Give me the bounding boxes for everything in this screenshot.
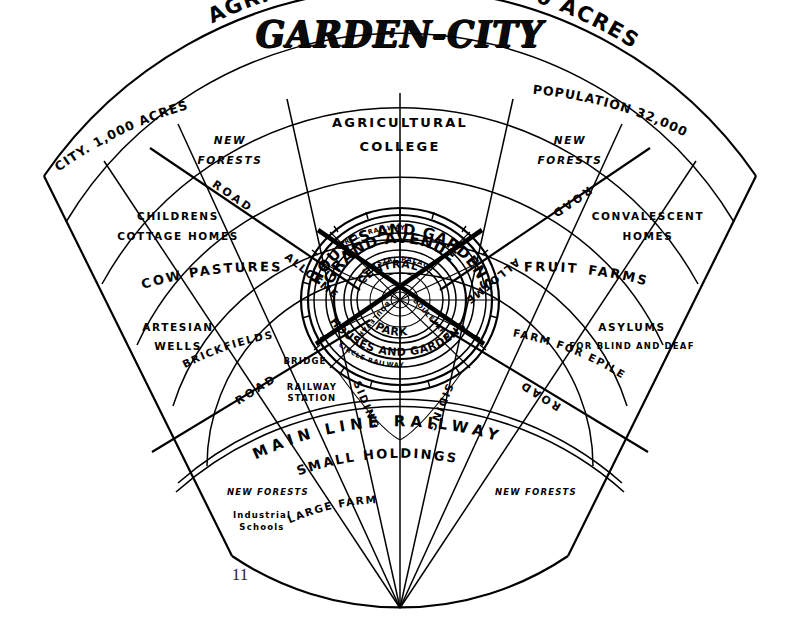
label-park: PARK: [373, 320, 408, 339]
label-new-forests-right-2: FORESTS: [538, 154, 603, 166]
label-new-forests-right: NEW: [554, 134, 586, 146]
label-new-forests-bottom-left: NEW FORESTS: [227, 487, 309, 497]
label-bridge: BRIDGE: [283, 356, 326, 366]
label-new-forests-left-2: FORESTS: [198, 154, 263, 166]
label-population: POPULATION 32,000: [532, 82, 690, 140]
label-small-holdings: SMALL HOLDINGS: [295, 446, 460, 479]
label-road-sw: ROAD: [233, 372, 280, 408]
label-railway-station-2: STATION: [288, 393, 337, 403]
label-allotments-left: ALLOTMENTS: [0, 0, 342, 301]
label-farms: FARMS: [587, 262, 650, 288]
label-convalescent-homes: HOMES: [623, 230, 674, 242]
label-industrial: Industrial: [233, 510, 291, 520]
label-cottage-homes: COTTAGE HOMES: [117, 230, 239, 242]
label-artesian: ARTESIAN: [142, 321, 213, 333]
garden-city-plan: CITY. 1,000 ACRES AGRICULTURAL LAND 5000…: [0, 0, 800, 619]
label-city-acres: CITY. 1,000 ACRES: [52, 97, 190, 174]
label-road-ne: ROAD: [548, 184, 594, 222]
label-railway-station: RAILWAY: [287, 382, 337, 392]
label-fruit: FRUIT: [524, 259, 579, 276]
label-cow-pastures: COW PASTURES: [140, 259, 283, 292]
diagram-page: GARDEN-CITY: [0, 0, 800, 619]
label-agricultural-college: AGRICULTURAL: [332, 115, 468, 130]
label-asylums: ASYLUMS: [598, 321, 665, 333]
label-agricultural-college-2: COLLEGE: [360, 139, 441, 154]
label-childrens: CHILDRENS: [137, 210, 219, 222]
label-new-forests-bottom-right: NEW FORESTS: [495, 487, 577, 497]
page-number: 11: [210, 565, 270, 585]
label-new-forests-left: NEW: [214, 134, 246, 146]
label-schools: Schools: [239, 522, 284, 532]
label-convalescent: CONVALESCENT: [592, 210, 704, 222]
label-artesian-wells: WELLS: [154, 340, 202, 352]
